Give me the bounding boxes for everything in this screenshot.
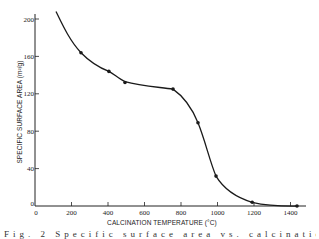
- x-tick-1200: 1200: [247, 209, 262, 217]
- y-ticks: [35, 19, 39, 169]
- x-tick-800: 800: [176, 209, 187, 217]
- y-tick-40: 40: [27, 165, 35, 173]
- y-tick-160: 160: [24, 53, 35, 61]
- y-axis-title: SPECIFIC SURFACE AREA (m²/g): [16, 60, 24, 163]
- x-tick-1400: 1400: [284, 209, 299, 217]
- y-tick-120: 120: [24, 90, 35, 98]
- y-tick-80: 80: [27, 128, 35, 136]
- data-point: [171, 87, 175, 91]
- x-tick-200: 200: [66, 209, 77, 217]
- data-point: [107, 70, 111, 74]
- x-axis-title: CALCINATION TEMPERATURE (°C): [107, 219, 217, 227]
- chart-canvas: 200 160 120 80 40 0 0 200 400 600 800 10…: [0, 0, 319, 239]
- figure-caption: Fig. 2 Specific surface area vs. calcina…: [4, 229, 316, 239]
- y-tick-200: 200: [24, 16, 35, 24]
- data-point: [123, 81, 127, 85]
- x-tick-0: 0: [34, 209, 38, 217]
- data-point: [196, 121, 200, 125]
- x-tick-600: 600: [139, 209, 150, 217]
- y-tick-0: 0: [31, 200, 35, 208]
- x-tick-400: 400: [103, 209, 114, 217]
- x-tick-labels: 0 200 400 600 800 1000 1200 1400: [34, 209, 298, 217]
- data-point: [214, 174, 218, 178]
- data-point: [250, 201, 254, 205]
- x-tick-1000: 1000: [211, 209, 226, 217]
- data-point: [79, 51, 83, 55]
- y-tick-labels: 200 160 120 80 40 0: [24, 16, 35, 209]
- data-markers: [79, 51, 299, 208]
- data-curve: [56, 12, 298, 207]
- data-point: [295, 204, 299, 208]
